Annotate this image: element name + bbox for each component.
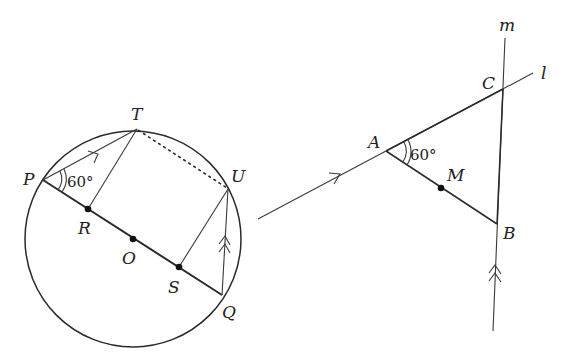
label-a: A [366,132,380,152]
point-o [130,236,137,243]
single-arrow-icon [88,151,98,163]
label-l-line: l [541,63,546,83]
point-s [176,264,183,271]
lines-figure: 60° m l C A M B [258,15,546,331]
point-r [85,206,92,213]
label-u: U [231,166,246,186]
label-t: T [131,104,144,124]
angle-arc [58,171,62,190]
segment-qu [222,189,228,295]
label-p: P [22,169,35,189]
angle-label-60-right: 60° [410,146,437,164]
angle-arc [62,169,66,192]
point-m [438,185,445,192]
label-r: R [77,218,91,238]
segment-rt [88,129,137,209]
segment-tu-dashed [138,130,227,188]
label-m-line: m [499,15,515,35]
angle-arc [403,142,406,162]
segment-su [179,189,228,267]
geometry-diagram: 60° P T U R O S Q 60° [0,0,563,363]
label-o: O [122,248,136,268]
angle-label-60-left: 60° [67,173,94,191]
label-b: B [502,223,516,243]
segment-ac [386,89,503,151]
label-s: S [168,277,180,297]
label-q: Q [222,302,236,322]
label-m-point: M [446,165,465,185]
segment-cb [497,89,503,224]
label-c: C [482,73,495,93]
circle-figure: 60° P T U R O S Q [22,104,246,347]
